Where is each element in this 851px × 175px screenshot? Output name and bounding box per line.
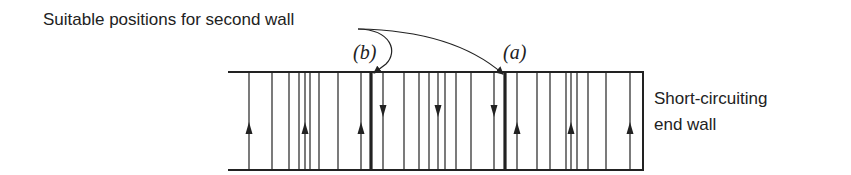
- arrow-up-icon: [568, 122, 575, 134]
- arrow-up-icon: [302, 122, 309, 134]
- arrow-down-icon: [380, 105, 387, 117]
- waveguide-diagram: Suitable positions for second wall (b) (…: [0, 0, 851, 175]
- pointer-curve-a: [358, 29, 503, 74]
- pointer-arrows: [358, 29, 503, 74]
- arrow-down-icon: [435, 105, 442, 117]
- end-wall-label-line2: end wall: [654, 115, 716, 134]
- field-lines: [246, 72, 634, 170]
- title-label: Suitable positions for second wall: [43, 10, 294, 29]
- arrow-up-icon: [514, 122, 521, 134]
- arrow-up-icon: [358, 122, 365, 134]
- arrow-up-icon: [627, 122, 634, 134]
- position-label-b: (b): [353, 41, 377, 64]
- end-wall-label-line1: Short-circuiting: [654, 89, 767, 108]
- arrow-down-icon: [491, 105, 498, 117]
- arrow-up-icon: [246, 122, 253, 134]
- position-label-a: (a): [503, 41, 527, 64]
